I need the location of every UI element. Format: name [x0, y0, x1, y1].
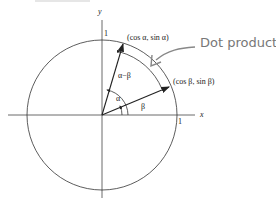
annotation-text: Dot product — [200, 35, 276, 50]
point-b-label: (cos β, sin β) — [173, 77, 215, 86]
y-axis-label: y — [97, 7, 102, 16]
x-one-label: 1 — [178, 117, 182, 126]
x-axis-label: x — [199, 110, 204, 119]
beta-label: β — [141, 102, 145, 111]
point-a-label: (cos α, sin α) — [127, 33, 169, 42]
angle-difference-label: α−β — [118, 71, 131, 80]
annotation-arrow — [156, 47, 195, 60]
y-one-label: 1 — [104, 29, 108, 38]
unit-circle-diagram: y x 1 1 (cos α, sin α) (cos β, sin β) α−… — [0, 0, 276, 205]
alpha-label: α — [116, 94, 121, 103]
cropped-caption — [35, 0, 90, 2]
